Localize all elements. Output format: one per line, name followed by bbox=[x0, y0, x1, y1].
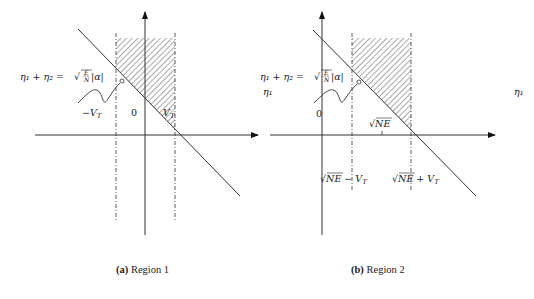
caption-b: (b) Region 2 bbox=[351, 264, 405, 276]
sqrt-sign: √ bbox=[74, 71, 81, 82]
sqrt-numerator: E bbox=[323, 69, 329, 76]
pointer-squiggle bbox=[78, 83, 120, 103]
pointer-squiggle bbox=[314, 84, 357, 103]
pointer-tip-icon bbox=[357, 80, 361, 84]
label-zero: 0 bbox=[131, 107, 137, 118]
sqrt-denominator: N bbox=[323, 76, 330, 83]
label-eta1-right: η₁ bbox=[514, 86, 524, 97]
equation-lhs: η₁ + η₂ = bbox=[260, 71, 304, 82]
label-sqrtne-minus-vt: √NE − VT bbox=[320, 173, 368, 186]
label-eta1-left: η₁ bbox=[263, 86, 273, 97]
pointer-tip-icon bbox=[120, 79, 124, 83]
figure-canvas: η₁ + η₂ = √ E N |α| −VT 0 VT (a) Region … bbox=[0, 0, 534, 299]
equation-rhs: |α| bbox=[331, 71, 344, 83]
panel-b: η₁ + η₂ = √ E N |α| η₁ 0 √NE √NE − VT √N… bbox=[260, 12, 524, 276]
label-origin: 0 bbox=[316, 108, 322, 119]
label-sqrt-ne: √NE bbox=[369, 118, 390, 129]
label-sqrtne-plus-vt: √NE + VT bbox=[392, 173, 440, 186]
sqrt-denominator: N bbox=[83, 76, 90, 83]
label-neg-vt: −VT bbox=[82, 107, 103, 120]
equation-lhs: η₁ + η₂ = bbox=[20, 71, 64, 82]
sqrt-numerator: E bbox=[83, 69, 89, 76]
equation-rhs: |α| bbox=[91, 71, 104, 83]
caption-a: (a) Region 1 bbox=[116, 264, 169, 276]
panel-a: η₁ + η₂ = √ E N |α| −VT 0 VT (a) Region … bbox=[20, 12, 258, 276]
sqrt-sign: √ bbox=[314, 71, 321, 82]
